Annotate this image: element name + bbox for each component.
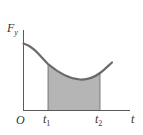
origin-label: O: [16, 113, 25, 127]
t1-label: t1: [43, 112, 50, 128]
t2-label: t2: [95, 112, 102, 128]
impulse-diagram: Fy O t1 t2 t: [0, 0, 143, 135]
force-curve: [24, 44, 113, 80]
y-axis-label: Fy: [6, 21, 18, 37]
y-axis-subscript: y: [13, 28, 18, 37]
x-axis-label: t: [131, 112, 135, 126]
